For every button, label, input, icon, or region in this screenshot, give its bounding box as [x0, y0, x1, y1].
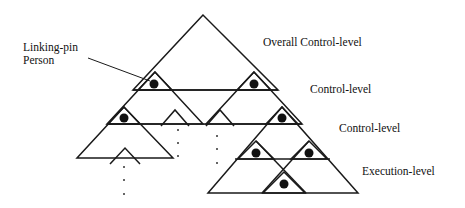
linking-pin-mid-right — [278, 114, 287, 123]
continuation-dots-center-left — [177, 129, 179, 157]
linking-pin-top-left — [150, 80, 159, 89]
linking-pin-label-line2: Person — [23, 54, 78, 67]
linking-pin-exec-right — [305, 149, 314, 158]
overall-control-triangle — [133, 15, 278, 90]
control-level-label-2: Control-level — [339, 122, 400, 135]
continuation-dots-center-right — [216, 135, 218, 164]
control-level-label-1: Control-level — [310, 83, 371, 96]
overall-control-level-label: Overall Control-level — [263, 36, 362, 49]
execution-level-label: Execution-level — [362, 165, 435, 178]
linking-pin-mid-left — [120, 114, 129, 123]
linking-pin-exec-bottom — [280, 180, 289, 189]
partial-triangle-lower-left — [110, 148, 140, 164]
linking-pin-top-right — [250, 80, 259, 89]
linking-pin-label-line1: Linking-pin — [23, 41, 78, 54]
continuation-dots-left — [123, 166, 125, 195]
linking-pin-label: Linking-pin Person — [23, 41, 78, 67]
linking-pin-exec-left — [252, 149, 261, 158]
linking-pin-pointer-line — [88, 58, 150, 81]
